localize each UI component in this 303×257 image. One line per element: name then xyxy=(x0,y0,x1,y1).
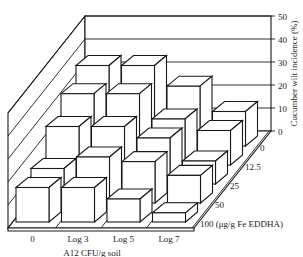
bar-front xyxy=(16,188,49,223)
x-tick-label: Log 3 xyxy=(67,234,89,244)
x-tick-label: Log 5 xyxy=(113,234,135,244)
depth-tick-label: 100 (μg/g Fe EDDHA) xyxy=(200,219,283,229)
bar xyxy=(62,178,107,223)
y-tick-label: 40 xyxy=(278,35,288,45)
bar-front xyxy=(62,188,95,223)
y-tick-label: 30 xyxy=(278,58,288,68)
floor-edge xyxy=(8,228,194,231)
depth-tick-label: 50 xyxy=(215,200,225,210)
bar-front xyxy=(168,175,201,203)
y-tick-label: 0 xyxy=(278,127,283,137)
bar-front xyxy=(107,199,140,222)
depth-tick-label: 12.5 xyxy=(245,162,261,172)
y-axis-title: Cucumber wilt incidence (%) xyxy=(289,20,299,126)
bar xyxy=(168,165,213,203)
3d-bar-chart: 010203040500Log 3Log 5Log 7A12 CFU/g soi… xyxy=(0,0,303,257)
bar xyxy=(107,189,152,222)
y-tick-label: 50 xyxy=(278,12,288,22)
bar-front xyxy=(153,213,186,222)
chart-canvas: 010203040500Log 3Log 5Log 7A12 CFU/g soi… xyxy=(0,0,303,257)
x-tick-label: Log 7 xyxy=(158,234,180,244)
x-tick-label: 0 xyxy=(30,234,35,244)
depth-tick-label: 0 xyxy=(260,143,265,153)
y-tick-label: 10 xyxy=(278,104,288,114)
depth-tick-label: 25 xyxy=(230,181,240,191)
x-axis-title: A12 CFU/g soil xyxy=(63,248,121,257)
bar xyxy=(16,178,61,223)
y-tick-label: 20 xyxy=(278,81,288,91)
